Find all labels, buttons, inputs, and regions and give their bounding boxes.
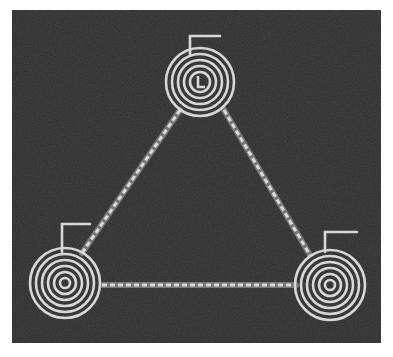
wire-sculpture: [12, 10, 381, 343]
bottom-margin: [0, 343, 393, 357]
wire-triangle-photo: Twisted silver wire triangle with three …: [12, 10, 381, 343]
